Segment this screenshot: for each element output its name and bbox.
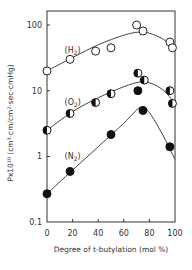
open-circle-marker bbox=[168, 44, 176, 52]
open-circle-marker bbox=[107, 44, 115, 52]
series-label: (O2) bbox=[65, 98, 81, 108]
y-tick-label: 1 bbox=[37, 152, 42, 161]
series-label: (N2) bbox=[65, 152, 81, 162]
y-tick-label: 10 bbox=[32, 87, 42, 96]
data-points bbox=[43, 21, 176, 198]
open-circle-marker bbox=[133, 21, 141, 29]
series-labels: (H2)(O2)(N2) bbox=[65, 46, 81, 163]
x-axis-label: Degree of t-butylation (mol %) bbox=[54, 245, 169, 254]
x-tick-label: 60 bbox=[119, 229, 129, 238]
open-circle-marker bbox=[66, 55, 74, 63]
filled-circle-marker bbox=[139, 106, 147, 114]
fit-curve bbox=[47, 107, 175, 194]
open-circle-marker bbox=[92, 47, 100, 55]
series-label: (H2) bbox=[65, 46, 81, 56]
y-axis-label: Px10¹⁰ (cm³·cm/cm²·sec·cmHg) bbox=[6, 64, 15, 181]
x-tick-label: 40 bbox=[93, 229, 103, 238]
y-tick-label: 0.1 bbox=[29, 218, 42, 227]
x-tick-label: 80 bbox=[144, 229, 154, 238]
filled-circle-marker bbox=[107, 131, 115, 139]
y-tick-label: 100 bbox=[27, 21, 42, 30]
filled-circle-marker bbox=[166, 143, 174, 151]
permeability-chart: 020406080100 0.1110100 (H2)(O2)(N2) Degr… bbox=[0, 0, 192, 270]
open-circle-marker bbox=[43, 67, 51, 75]
filled-circle-marker bbox=[134, 87, 142, 95]
x-tick-label: 100 bbox=[167, 229, 182, 238]
open-circle-marker bbox=[139, 27, 147, 35]
filled-circle-marker bbox=[43, 190, 51, 198]
filled-circle-marker bbox=[66, 167, 74, 175]
x-tick-label: 0 bbox=[44, 229, 49, 238]
x-tick-label: 20 bbox=[68, 229, 78, 238]
